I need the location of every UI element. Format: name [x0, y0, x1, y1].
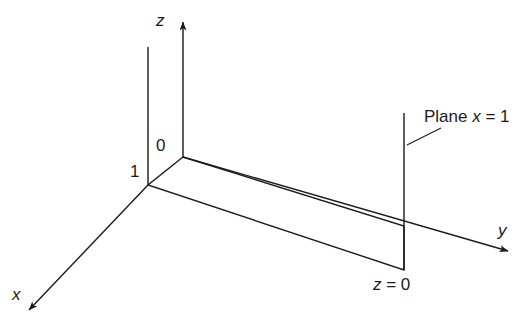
coordinate-diagram-svg: [0, 0, 530, 333]
z-equals-zero-value: = 0: [382, 275, 411, 294]
plane-x-equals-1-parallelogram: [148, 157, 404, 270]
x-axis-line: [29, 185, 148, 310]
z-equals-zero-variable: z: [373, 275, 382, 294]
x-one-tick-label: 1: [130, 163, 139, 180]
z-axis-label: z: [156, 12, 165, 29]
plane-label-leader-line: [407, 128, 441, 145]
x-axis-label: x: [12, 286, 21, 303]
z-equals-zero-annotation: z = 0: [373, 276, 410, 293]
y-axis-label: y: [498, 222, 507, 239]
plane-variable: x: [472, 107, 481, 126]
plane-value: = 1: [481, 107, 510, 126]
origin-zero-label: 0: [156, 137, 165, 154]
plane-word: Plane: [424, 107, 472, 126]
plane-x-equals-one-annotation: Plane x = 1: [424, 108, 510, 125]
y-axis-line: [183, 157, 508, 251]
figure-canvas: z x y 0 1 z = 0 Plane x = 1: [0, 0, 530, 333]
